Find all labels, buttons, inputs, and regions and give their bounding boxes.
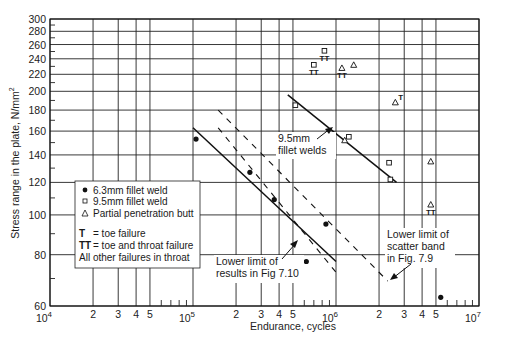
y-axis-ticks: 6080100120140160180200220240260280300 — [28, 13, 55, 312]
x-minor-tick-label: 4 — [276, 308, 282, 320]
x-major-tick-label: 104 — [36, 310, 53, 324]
annotation-line: Lower limit of — [387, 228, 449, 240]
sn-fatigue-chart: 6080100120140160180200220240260280300 23… — [0, 0, 505, 341]
failure-mode-label: T — [398, 93, 403, 102]
annotation-line: results in Fig 7.10 — [216, 267, 299, 279]
annotation-line: scatter band — [387, 240, 445, 252]
y-tick-label: 100 — [28, 209, 46, 221]
filled-circle-icon — [83, 188, 88, 193]
y-tick-label: 260 — [28, 39, 46, 51]
x-minor-tick-label: 4 — [419, 308, 425, 320]
filled-circle-icon — [247, 170, 252, 175]
y-tick-label: 200 — [28, 85, 46, 97]
filled-circle-icon — [304, 259, 309, 264]
y-tick-label: 240 — [28, 53, 46, 65]
open-triangle-icon — [428, 158, 434, 164]
filled-circle-icon — [272, 197, 277, 202]
x-minor-tick-label: 2 — [90, 308, 96, 320]
open-square-icon — [347, 134, 352, 139]
annotation-line: 9.5mm — [278, 132, 310, 144]
failure-mode-label: TT — [337, 71, 347, 80]
x-minor-tick-label: 2 — [376, 308, 382, 320]
filled-circle-icon — [438, 295, 443, 300]
failure-mode-label: TT — [320, 54, 330, 63]
legend-note-key: TT — [79, 240, 91, 251]
legend-note-key: T — [79, 228, 85, 239]
legend-label: 9.5mm fillet weld — [93, 196, 167, 207]
annotation-line: fillet welds — [278, 144, 326, 156]
y-tick-label: 60 — [34, 300, 46, 312]
open-square-icon — [388, 177, 393, 182]
legend-note-label: = toe failure — [93, 228, 146, 239]
failure-mode-label: TT — [426, 208, 436, 217]
x-minor-tick-label: 5 — [147, 308, 153, 320]
x-minor-tick-label: 5 — [290, 308, 296, 320]
arrow-head-icon — [390, 273, 398, 280]
y-tick-label: 160 — [28, 125, 46, 137]
y-tick-label: 180 — [28, 104, 46, 116]
failure-mode-label: TT — [309, 68, 319, 77]
legend-note-label: = toe and throat failure — [93, 240, 194, 251]
y-tick-label: 300 — [28, 13, 46, 25]
x-minor-tick-label: 3 — [401, 308, 407, 320]
open-square-icon — [322, 49, 327, 54]
legend-label: 6.3mm fillet weld — [93, 185, 167, 196]
x-minor-tick-label: 4 — [133, 308, 139, 320]
legend: 6.3mm fillet weld 9.5mm fillet weld Part… — [75, 181, 200, 268]
y-axis-title-text: Stress range in the plate, N/mm — [9, 91, 21, 239]
open-triangle-icon — [428, 202, 434, 208]
svg-text:Stress range in the plate, N/m: Stress range in the plate, N/mm2 — [8, 87, 21, 239]
y-tick-label: 80 — [34, 249, 46, 261]
annotation-line: Lower limit of — [216, 255, 278, 267]
arrow-head-icon — [290, 240, 298, 248]
y-axis-title: Stress range in the plate, N/mm2 — [8, 87, 21, 239]
annotation-line: in Fig. 7.9 — [387, 252, 433, 264]
annotation-9-5mm-fillet-welds: 9.5mm fillet welds — [276, 127, 336, 159]
open-triangle-icon — [339, 65, 345, 71]
y-tick-label: 140 — [28, 149, 46, 161]
y-tick-label: 280 — [28, 25, 46, 37]
fit-lines — [193, 95, 397, 281]
legend-note-label: All other failures in throat — [79, 252, 190, 263]
x-minor-tick-label: 2 — [233, 308, 239, 320]
y-tick-label: 220 — [28, 68, 46, 80]
annotation-lower-limit-fig-7-10: Lower limit of results in Fig 7.10 — [214, 240, 304, 283]
x-major-tick-label: 105 — [179, 310, 196, 324]
x-minor-tick-label: 3 — [258, 308, 264, 320]
x-minor-tick-label: 3 — [115, 308, 121, 320]
filled-circle-icon — [323, 221, 328, 226]
open-square-icon — [293, 103, 298, 108]
filled-circle-icon — [193, 136, 198, 141]
y-tick-label: 120 — [28, 176, 46, 188]
y-axis-title-superscript: 2 — [8, 87, 15, 91]
x-minor-tick-label: 5 — [433, 308, 439, 320]
annotation-lower-limit-fig-7-9: Lower limit of scatter band in Fig. 7.9 — [385, 228, 455, 280]
x-major-tick-label: 107 — [465, 310, 482, 324]
open-square-icon — [312, 63, 317, 68]
legend-label: Partial penetration butt — [93, 208, 194, 219]
x-axis-title: Endurance, cycles — [250, 320, 336, 332]
open-square-icon — [387, 160, 392, 165]
open-triangle-icon — [351, 62, 357, 68]
